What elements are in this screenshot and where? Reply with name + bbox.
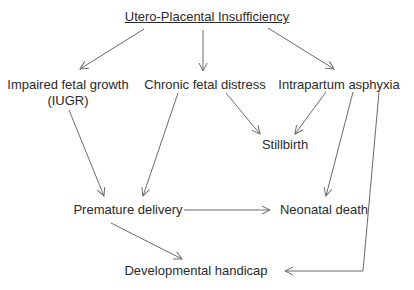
node-intrapartum-asphyxia: Intrapartum asphyxia [278, 77, 399, 93]
node-title: Utero-Placental Insufficiency [125, 9, 290, 25]
edge-chronic-to-stillbirth [226, 93, 260, 134]
flow-diagram: Utero-Placental Insufficiency Impaired f… [0, 0, 414, 290]
edge-asphyxia-to-stillbirth [295, 92, 326, 134]
node-chronic-fetal-distress: Chronic fetal distress [144, 77, 265, 93]
edge-asphyxia-to-handicap [285, 92, 379, 271]
edge-iugr-to-premature [69, 110, 104, 196]
edges-layer [0, 0, 414, 290]
node-developmental-handicap: Developmental handicap [124, 263, 267, 279]
edge-title-to-asphyxia [268, 28, 334, 69]
node-iugr-line1: Impaired fetal growth [7, 77, 128, 93]
edge-chronic-to-premature [143, 93, 178, 196]
node-premature-delivery: Premature delivery [73, 202, 182, 218]
node-stillbirth: Stillbirth [262, 137, 308, 153]
node-iugr-line2: (IUGR) [47, 93, 88, 109]
edge-premature-to-handicap [111, 223, 182, 259]
node-neonatal-death: Neonatal death [280, 202, 368, 218]
edge-asphyxia-to-neonatal [326, 92, 353, 196]
edge-title-to-iugr [80, 29, 144, 69]
